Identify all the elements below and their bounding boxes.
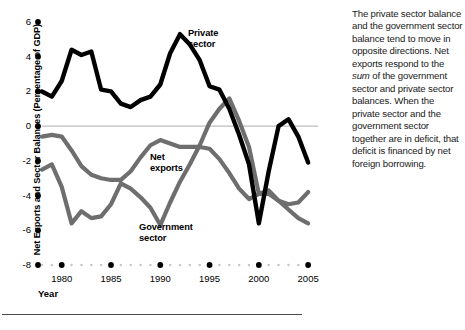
- x-axis-major-dot: [59, 262, 65, 268]
- y-tick-label: 2: [9, 86, 31, 96]
- annotation-private-sector-line1: Private: [188, 28, 218, 38]
- x-axis-minor-dot: [267, 264, 270, 267]
- annotation-net-exports-line2: exports: [150, 163, 183, 173]
- chart-plot-area: Net Exports and Sector Balances (Percent…: [0, 0, 340, 300]
- x-axis-major-dot: [207, 262, 213, 268]
- x-axis-major-dot: [157, 262, 163, 268]
- x-axis-minor-dot: [51, 264, 54, 267]
- x-tick-label: 2000: [239, 274, 279, 284]
- x-tick-label: 1990: [140, 274, 180, 284]
- x-axis-major-dot: [305, 262, 311, 268]
- commentary-emphasis: sum: [352, 70, 370, 81]
- commentary-part2: of the government sector and private sec…: [352, 70, 459, 168]
- commentary-text: The private sector balance and the gover…: [352, 8, 464, 170]
- x-tick-label: 2005: [288, 274, 328, 284]
- x-tick-label: 1985: [91, 274, 131, 284]
- y-tick-label: 0: [9, 121, 31, 131]
- x-axis-minor-dot: [169, 264, 172, 267]
- x-axis-minor-dot: [149, 264, 152, 267]
- x-tick-label: 1980: [42, 274, 82, 284]
- x-axis-minor-dot: [198, 264, 201, 267]
- y-tick-label: -8: [9, 260, 31, 270]
- annotation-private-sector-line2: sector: [188, 39, 215, 49]
- x-axis-minor-dot: [277, 264, 280, 267]
- y-tick-label: -2: [9, 156, 31, 166]
- x-axis-minor-dot: [248, 264, 251, 267]
- x-axis-minor-dot: [90, 264, 93, 267]
- x-axis-minor-dot: [120, 264, 123, 267]
- x-axis-minor-dot: [139, 264, 142, 267]
- commentary-part1: The private sector balance and the gover…: [352, 8, 462, 69]
- x-axis-major-dot: [256, 262, 262, 268]
- x-axis-major-dots: [59, 262, 311, 268]
- figure-container: Net Exports and Sector Balances (Percent…: [0, 0, 465, 330]
- source-note: [4, 322, 304, 329]
- annotation-government-sector-line2: sector: [139, 233, 166, 243]
- x-axis-minor-dot: [297, 264, 300, 267]
- annotation-government-sector: Government sector: [139, 222, 225, 244]
- x-tick-label: 1995: [190, 274, 230, 284]
- footer-divider: [2, 314, 302, 315]
- annotation-net-exports-line1: Net: [150, 152, 165, 162]
- annotation-net-exports: Net exports: [150, 152, 210, 174]
- x-axis-minor-dot: [80, 264, 83, 267]
- x-axis-minor-dot: [189, 264, 192, 267]
- x-axis-title: Year: [38, 289, 58, 299]
- x-axis-minor-dot: [287, 264, 290, 267]
- x-axis-major-dot: [108, 262, 114, 268]
- line-chart-svg: [0, 0, 340, 300]
- y-tick-label: -6: [9, 225, 31, 235]
- x-axis-minor-dot: [218, 264, 221, 267]
- y-tick-label: 6: [9, 17, 31, 27]
- x-axis-minor-dot: [179, 264, 182, 267]
- x-axis-minor-dot: [228, 264, 231, 267]
- annotation-government-sector-line1: Government: [139, 222, 193, 232]
- y-tick-label: 4: [9, 52, 31, 62]
- x-axis-minor-dot: [129, 264, 132, 267]
- annotation-private-sector: Private sector: [188, 28, 248, 50]
- x-axis-minor-dot: [100, 264, 103, 267]
- x-axis-minor-dot: [70, 264, 73, 267]
- y-axis-title: Net Exports and Sector Balances (Percent…: [33, 0, 42, 280]
- y-tick-label: -4: [9, 191, 31, 201]
- x-axis-minor-dot: [238, 264, 241, 267]
